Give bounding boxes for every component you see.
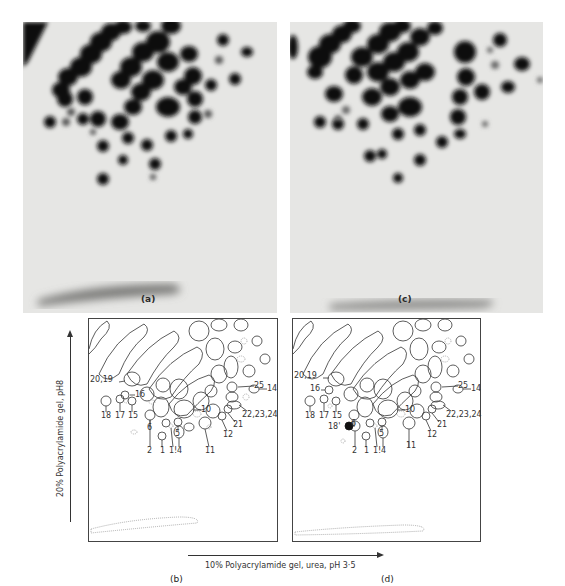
spot-label-5: 5 [175, 429, 180, 438]
spot-label-25: 25 [254, 381, 264, 390]
y-axis-label: 20% Polyacrylamide gel, pH8 [56, 380, 65, 497]
spot-label-20-19: 20,19 [90, 375, 113, 384]
spot-outlines-d [293, 319, 482, 543]
spot-label-10: 10 [201, 405, 211, 414]
gel-spots-c [290, 22, 543, 313]
spot-label-15: 15 [128, 411, 138, 420]
x-axis-arrowhead-icon [377, 552, 384, 558]
spot-label-25: 25 [458, 381, 468, 390]
spot-label-16: 16 [310, 384, 320, 393]
gel-spots-a [23, 22, 277, 313]
spot-label-4: 4 [381, 446, 386, 455]
spot-diagram-d: 20,19 16 18 17 15 6 5 10 25 14 22,23,24 … [292, 318, 481, 542]
spot-label-2: 2 [352, 446, 357, 455]
spot-label-18: 18 [305, 411, 315, 420]
x-axis-label: 10% Polyacrylamide gel, urea, pH 3·5 [205, 561, 355, 570]
panel-label-c: (c) [398, 294, 412, 304]
spot-label-22-23-24: 22,23,24 [446, 410, 482, 419]
spot-label-1: 1 [364, 446, 369, 455]
spot-label-1: 1 [160, 446, 165, 455]
spot-label-21: 21 [233, 420, 243, 429]
y-axis-arrow [70, 334, 71, 522]
spot-label-12: 12 [427, 430, 437, 439]
spot-label-16: 16 [135, 390, 145, 399]
gel-photograph-a: (a) [23, 22, 277, 313]
spot-label-14: 14 [471, 384, 481, 393]
spot-label-14: 14 [267, 384, 277, 393]
spot-label-18-prime: 18' [328, 422, 340, 431]
spot-label-21: 21 [437, 420, 447, 429]
spot-label-17: 17 [319, 411, 329, 420]
spot-label-4: 4 [177, 446, 182, 455]
x-axis-arrow [188, 555, 378, 556]
spot-label-11: 11 [406, 441, 416, 450]
spot-label-11: 11 [205, 446, 215, 455]
spot-label-15: 15 [332, 411, 342, 420]
spot-label-12: 12 [223, 430, 233, 439]
panel-label-b: (b) [170, 574, 183, 584]
spot-label-6: 6 [147, 423, 152, 432]
spot-label-5: 5 [379, 429, 384, 438]
gel-photograph-c: (c) [290, 22, 543, 313]
spot-label-6: 6 [351, 419, 356, 428]
panel-label-a: (a) [141, 294, 155, 304]
panel-label-d: (d) [381, 574, 394, 584]
spot-label-22-23-24: 22,23,24 [242, 410, 278, 419]
spot-label-17: 17 [115, 411, 125, 420]
spot-label-18: 18 [101, 411, 111, 420]
y-axis-arrowhead-icon [67, 330, 73, 337]
spot-label-10: 10 [405, 405, 415, 414]
spot-label-20-19: 20,19 [294, 371, 317, 380]
spot-diagram-b: 20,19 16 18 17 15 6 5 10 25 14 22,23,24 … [88, 318, 278, 542]
spot-outlines-b [89, 319, 279, 543]
spot-label-2: 2 [147, 446, 152, 455]
